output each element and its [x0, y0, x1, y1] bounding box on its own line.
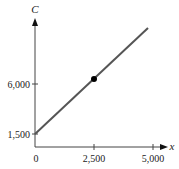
x-tick-label-5000: 5,000: [142, 153, 165, 164]
x-axis-arrow-icon: [160, 144, 168, 150]
x-axis-label: x: [169, 140, 175, 152]
data-point: [91, 76, 97, 82]
y-tick-label-6000: 6,000: [8, 79, 31, 90]
x-tick-label-0: 0: [34, 153, 39, 164]
y-tick-label-1500: 1,500: [8, 129, 31, 140]
y-axis-arrow-icon: [32, 18, 38, 26]
x-tick-label-2500: 2,500: [83, 153, 106, 164]
cost-line: [35, 28, 148, 134]
y-axis-label: C: [31, 3, 39, 15]
line-chart: C x 6,000 1,500 0 2,500 5,000: [0, 0, 179, 169]
